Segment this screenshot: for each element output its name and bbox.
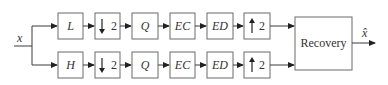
upsample-factor: 2 — [259, 19, 265, 33]
branch-low: L 2 Q EC ED 2 — [58, 13, 294, 39]
recovery-label: Recovery — [301, 36, 347, 50]
block-EC-label: EC — [174, 19, 191, 33]
block-ED-label: ED — [211, 19, 228, 33]
output-label: x̂ — [361, 26, 368, 40]
block-upsample — [244, 13, 270, 39]
block-L-label: L — [66, 19, 74, 33]
input-label: x — [16, 31, 23, 45]
block-ED-label: ED — [211, 58, 228, 72]
block-Q-label: Q — [141, 58, 150, 72]
block-EC-label: EC — [174, 58, 191, 72]
downsample-factor: 2 — [111, 19, 117, 33]
block-Q-label: Q — [141, 19, 150, 33]
subband-coding-diagram: x L 2 Q EC ED 2 H — [0, 0, 388, 85]
branch-high: H 2 Q EC ED 2 — [58, 52, 294, 78]
block-H-label: H — [65, 58, 76, 72]
block-upsample — [244, 52, 270, 78]
upsample-factor: 2 — [259, 58, 265, 72]
downsample-factor: 2 — [111, 58, 117, 72]
